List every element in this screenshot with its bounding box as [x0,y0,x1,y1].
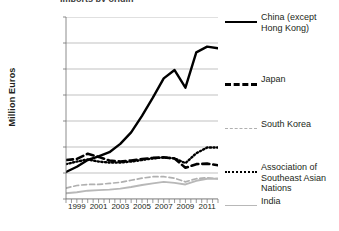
legend-swatch-icon [225,205,257,212]
x-tick-label: 2001 [90,202,108,211]
legend: China (except Hong Kong)JapanSouth Korea… [225,14,339,204]
legend-swatch-icon [225,21,257,29]
x-tick-label: 2009 [177,202,195,211]
y-axis-title: Million Euros [7,47,17,147]
legend-swatch-icon [225,128,257,135]
legend-label: China (except Hong Kong) [261,12,339,33]
chart-title-cropped: Imports by origin [60,0,230,2]
legend-label: Association of Southeast Asian Nations [261,162,339,194]
legend-label: South Korea [261,119,339,130]
x-axis-tick-labels: 1999200120032005200720092011 [66,202,218,216]
axis-lines [66,17,218,204]
legend-swatch-icon [225,83,257,92]
legend-swatch-icon [225,171,257,179]
x-tick-label: 2007 [155,202,173,211]
y-axis-ticks [63,17,66,199]
legend-label: Japan [261,74,339,85]
chart-figure: Imports by origin Million Euros 050,0001… [0,0,339,231]
x-tick-label: 2003 [111,202,129,211]
x-tick-label: 2011 [199,202,216,211]
x-tick-label: 2005 [133,202,151,211]
legend-label: India [261,196,339,207]
x-tick-label: 1999 [68,202,86,211]
